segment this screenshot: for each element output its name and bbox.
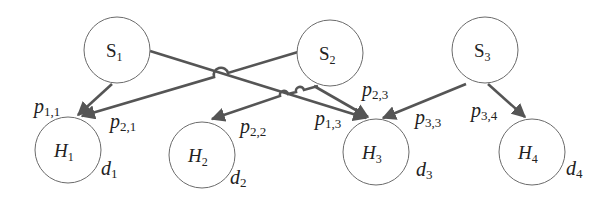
demand-label-d4: d4 — [566, 157, 583, 181]
edge-label-p23: p2,3 — [360, 78, 388, 102]
source-node-s3: S3 — [452, 17, 518, 83]
source-node-s1: S1 — [84, 17, 150, 83]
demand-label-d3: d3 — [416, 158, 433, 182]
host-node-h1: H1 — [35, 117, 101, 183]
edge-s2-h2 — [212, 86, 318, 119]
source-node-s2: S2 — [297, 20, 363, 86]
edge-label-p33: p3,3 — [413, 106, 441, 130]
edge-label-p34: p3,4 — [469, 99, 498, 123]
host-node-h2: H2 — [169, 122, 235, 188]
host-node-h4: H4 — [499, 119, 565, 185]
edge-s1-h1 — [78, 84, 112, 115]
edge-label-p22: p2,2 — [238, 115, 266, 139]
host-node-h3: H3 — [343, 119, 409, 185]
edge-label-p21: p2,1 — [108, 110, 136, 134]
demand-label-d1: d1 — [101, 157, 118, 181]
bipartite-flow-diagram: S1 S2 S3 H1 H2 H3 H4 p1,1 p2,1 p2,2 p1,3… — [0, 0, 615, 201]
edge-label-p11: p1,1 — [32, 95, 60, 119]
edge-label-p13: p1,3 — [313, 107, 341, 131]
demand-label-d2: d2 — [230, 166, 247, 190]
